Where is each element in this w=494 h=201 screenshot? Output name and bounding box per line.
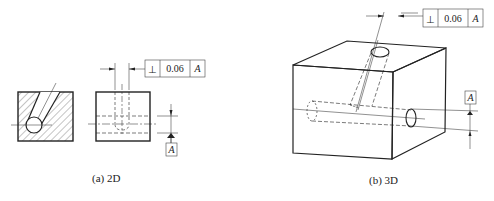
perpendicularity-icon: ⊥ <box>148 64 157 75</box>
tolerance-value: 0.06 <box>166 63 184 74</box>
isometric-block <box>293 12 478 159</box>
tolerance-value: 0.06 <box>444 13 462 24</box>
section-view <box>11 83 73 141</box>
datum-label-2d: A <box>166 143 177 156</box>
drawing-canvas: ⊥ 0.06 A A <box>0 0 494 201</box>
svg-text:A: A <box>167 144 175 155</box>
perpendicularity-icon: ⊥ <box>426 14 435 25</box>
datum-reference: A <box>471 13 479 24</box>
caption-3d: (b) 3D <box>369 174 398 186</box>
tolerance-frame-3d: ⊥ 0.06 A <box>423 9 483 27</box>
tolerance-frame-2d: ⊥ 0.06 A <box>145 60 205 77</box>
caption-2d: (a) 2D <box>92 172 120 184</box>
svg-text:A: A <box>466 92 474 103</box>
datum-label-3d: A <box>465 91 476 111</box>
datum-reference: A <box>193 63 201 74</box>
